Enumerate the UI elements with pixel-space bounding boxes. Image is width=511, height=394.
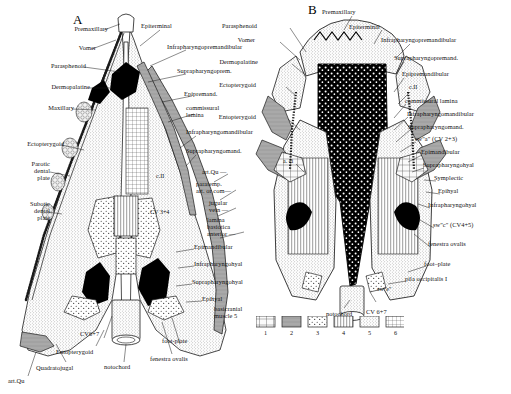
label-infrapharyngohyal-a: Infrapharyngohyal [194,260,242,267]
label-premaxillary-a: Premaxillary [0,25,108,32]
panel-letter-b: B [308,2,317,18]
label-lamina-basiotica-anterior-a: lamina basiotica anterior — [207,216,235,238]
label-ectopterygoid-b: Ectopterygoid [192,81,256,88]
anatomical-figure: A B Premaxillary Vomer Parasphenoid Derm… [0,0,511,394]
label-commissural-lamina-b: commissural lamina [405,97,458,104]
label-c-ii-b: c.II [409,84,417,91]
label-infrapharyngohyal-b: Infrapharyngohyal [428,201,476,208]
label-art-qu-a: art.Qu [8,377,24,384]
label-foot-plate-b: foot–plate [424,260,450,267]
label-c-ii-a: c.II [156,173,164,180]
label-fenestra-ovalis-a: fenestra ovalis [150,355,188,362]
label-suprapharyngohyal-a: Suprapharyngohyal [192,278,243,285]
legend-number-2: 2 [282,329,301,336]
label-parasphenoid-a: Parasphenoid [0,62,86,69]
label-epimandibular-a: Epimandibular [194,243,233,250]
label-suprapharyngohyal-b: Suprapharyngohyal [423,161,474,168]
label-infrapharyngomandibular-b: Infrapharyngomandibular [407,110,474,117]
legend-number-1: 1 [256,329,275,336]
label-infrapharyngomandibular-a: Infrapharyngomandibular [186,128,253,135]
label-epihyal-a: Epihyal [202,295,222,302]
label-dermopalatine-b: Dermopalatine [192,58,258,65]
pattern-legend: 1 2 3 4 5 6 [256,316,404,342]
label-vomer-a: Vomer [0,44,96,51]
label-art-qu-center-a: art.Qu — [202,168,227,175]
label-foot-plate-a: foot-plate [162,337,187,344]
label-premaxillary-b: Premaxillary [322,8,356,15]
label-basicranial-muscle-5: basicranial muscle 5 [214,305,242,319]
label-quadratojugal: Quadratojugal [36,364,73,371]
legend-swatches [256,316,404,329]
label-epimandibular-b: Epimandibular [421,148,460,155]
label-entopterygoid-b: Entopterygoid [192,113,256,120]
label-infrapharyngopremandibular-b: Infrapharyngopremandibular [381,36,456,43]
label-suprapharyngopremand-b: Suprapharyngopremand. [394,54,458,61]
label-symplectic-b: Symplectic [434,174,463,181]
label-sw-a-cv2-3: sw"a" (CV 2+3) [415,135,457,142]
label-ectopterygoid-a: Ectopterygoid [0,140,64,147]
label-cv3-4-a: CV 3+4 [150,209,169,216]
label-cv6-7-b: CV 6+7 [366,308,387,315]
label-maxillary-a: Maxillary [0,104,74,111]
label-epihyal-b: Epihyal [438,187,458,194]
label-sw-c-cv4-5: sw"c" (CV4+5) [433,221,474,228]
label-subotic-dental-plate: Subotic dental plate [0,200,50,222]
label-entopterygoid-a: Entopterygoid [56,348,93,355]
label-epiterminal-a: Epiterminal [141,22,172,29]
label-epipremand-a: Epipremand. [184,90,217,97]
label-pila-occipitalis-i: pila occipitalis I [405,275,447,282]
legend-number-5: 5 [360,329,379,336]
label-paratemporal-artery-a: paratemp. art. or com— [196,180,231,194]
label-vomer-b: Vomer [205,36,255,43]
label-epiterminal-b: Epiterminal [349,23,380,30]
legend-number-6: 6 [386,329,405,336]
label-epipremandibular-b: Epipremandibular [402,70,449,77]
legend-number-3: 3 [308,329,327,336]
label-fenestra-ovalis-b: fenestra ovalis [428,240,466,247]
label-suprapharyngoprem-a: Suprapharyngoprem. [177,67,232,74]
label-notochord-a: notochord [104,363,130,370]
label-cv6-7-a: CV6+7 [80,330,99,337]
label-sw-e: sw"e" [377,286,391,293]
label-parasphenoid-b: Parasphenoid [195,22,257,29]
label-parotic-dental-plate: Parotic dental plate [0,160,50,182]
label-infrapharyngopremandibular-a: Infrapharyngopremandibular [167,43,242,50]
label-a-ci-b: a. ci [283,158,293,165]
legend-number-4: 4 [334,329,353,336]
label-suprapharyngomand-b: Suprapharyngomand. [408,123,464,130]
label-jugular-vein-a: jugular vein — [209,199,228,213]
label-dermopalatine-a: Dermopalatine [0,83,90,90]
label-suprapharyngomand-a: Suprapharyngomand. [186,147,242,154]
